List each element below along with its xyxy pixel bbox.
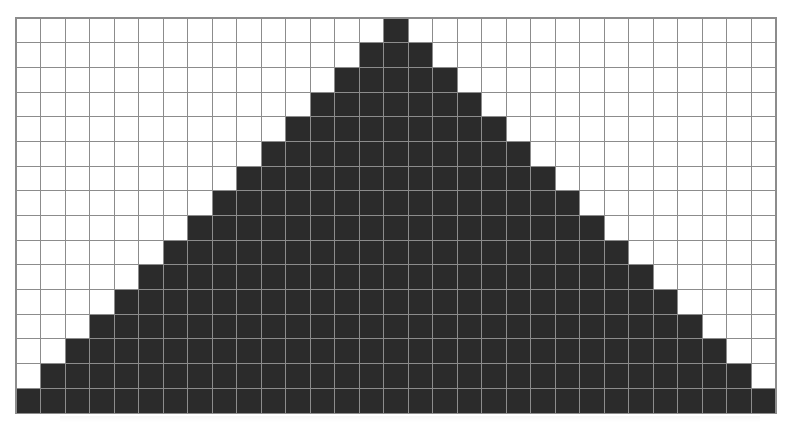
grid-cell-filled xyxy=(187,240,213,266)
grid-cell-empty xyxy=(114,42,140,68)
grid-cell-filled xyxy=(212,264,238,290)
grid-cell-empty xyxy=(702,240,728,266)
grid-cell-filled xyxy=(383,92,409,118)
grid-cell-filled xyxy=(334,289,360,315)
grid-cell-empty xyxy=(726,67,752,93)
grid-cell-empty xyxy=(751,289,777,315)
grid-cell-empty xyxy=(702,215,728,241)
grid-cell-empty xyxy=(89,166,115,192)
grid-cell-filled xyxy=(310,240,336,266)
grid-cell-empty xyxy=(506,67,532,93)
grid-cell-empty xyxy=(65,92,91,118)
grid-cell-empty xyxy=(16,240,42,266)
grid-cell-filled xyxy=(285,363,311,389)
grid-cell-empty xyxy=(16,67,42,93)
grid-cell-filled xyxy=(359,92,385,118)
grid-cell-empty xyxy=(751,363,777,389)
grid-cell-filled xyxy=(677,314,703,340)
grid-cell-empty xyxy=(530,42,556,68)
grid-cell-empty xyxy=(187,141,213,167)
grid-cell-empty xyxy=(751,314,777,340)
grid-cell-filled xyxy=(359,190,385,216)
grid-cell-filled xyxy=(334,314,360,340)
grid-cell-empty xyxy=(677,289,703,315)
grid-cell-empty xyxy=(677,264,703,290)
grid-cell-filled xyxy=(408,42,434,68)
grid-cell-empty xyxy=(138,42,164,68)
grid-cell-empty xyxy=(677,141,703,167)
grid-cell-empty xyxy=(310,67,336,93)
grid-cell-filled xyxy=(359,363,385,389)
grid-cell-empty xyxy=(555,18,581,44)
grid-cell-filled xyxy=(751,388,777,414)
grid-cell-filled xyxy=(408,166,434,192)
grid-cell-filled xyxy=(726,363,752,389)
grid-cell-empty xyxy=(138,18,164,44)
grid-cell-filled xyxy=(285,264,311,290)
grid-cell-filled xyxy=(310,388,336,414)
grid-cell-empty xyxy=(40,190,66,216)
grid-cell-empty xyxy=(334,42,360,68)
grid-cell-filled xyxy=(408,190,434,216)
grid-cell-filled xyxy=(236,388,262,414)
grid-cell-filled xyxy=(383,289,409,315)
grid-cell-filled xyxy=(138,388,164,414)
grid-cell-filled xyxy=(285,240,311,266)
grid-cell-empty xyxy=(40,264,66,290)
grid-cell-filled xyxy=(334,92,360,118)
grid-cell-empty xyxy=(40,18,66,44)
grid-cell-empty xyxy=(89,92,115,118)
grid-cell-empty xyxy=(726,18,752,44)
grid-cell-empty xyxy=(555,67,581,93)
grid-cell-empty xyxy=(628,166,654,192)
grid-cell-empty xyxy=(702,92,728,118)
grid-cell-filled xyxy=(114,289,140,315)
grid-cell-empty xyxy=(89,190,115,216)
grid-cell-filled xyxy=(285,289,311,315)
grid-cell-empty xyxy=(726,190,752,216)
scan-shadow xyxy=(60,416,760,422)
grid-cell-filled xyxy=(628,363,654,389)
grid-cell-empty xyxy=(40,314,66,340)
grid-cell-empty xyxy=(212,18,238,44)
grid-cell-filled xyxy=(212,240,238,266)
grid-cell-filled xyxy=(236,240,262,266)
grid-cell-empty xyxy=(212,67,238,93)
grid-cell-empty xyxy=(579,92,605,118)
grid-cell-filled xyxy=(628,388,654,414)
grid-cell-filled xyxy=(457,264,483,290)
grid-cell-filled xyxy=(212,338,238,364)
grid-cell-empty xyxy=(751,92,777,118)
grid-cell-empty xyxy=(726,240,752,266)
grid-cell-filled xyxy=(555,388,581,414)
grid-cell-filled xyxy=(628,338,654,364)
grid-cell-empty xyxy=(628,116,654,142)
grid-cell-empty xyxy=(285,67,311,93)
grid-cell-filled xyxy=(432,388,458,414)
grid-cell-filled xyxy=(359,42,385,68)
grid-cell-filled xyxy=(383,18,409,44)
grid-cell-filled xyxy=(187,264,213,290)
grid-cell-empty xyxy=(506,42,532,68)
grid-cell-empty xyxy=(726,289,752,315)
grid-cell-filled xyxy=(359,338,385,364)
grid-cell-filled xyxy=(579,338,605,364)
grid-cell-filled xyxy=(457,289,483,315)
grid-cell-empty xyxy=(65,215,91,241)
grid-cell-empty xyxy=(604,166,630,192)
grid-cell-filled xyxy=(530,314,556,340)
grid-cell-filled xyxy=(604,363,630,389)
grid-cell-empty xyxy=(163,42,189,68)
grid-cell-filled xyxy=(555,289,581,315)
grid-cell-filled xyxy=(285,166,311,192)
grid-cell-filled xyxy=(432,215,458,241)
grid-cell-filled xyxy=(236,264,262,290)
grid-cell-filled xyxy=(579,289,605,315)
grid-cell-empty xyxy=(16,338,42,364)
grid-cell-empty xyxy=(138,190,164,216)
grid-cell-empty xyxy=(677,190,703,216)
grid-cell-empty xyxy=(138,215,164,241)
grid-cell-empty xyxy=(677,18,703,44)
grid-cell-filled xyxy=(261,215,287,241)
grid-cell-empty xyxy=(187,67,213,93)
